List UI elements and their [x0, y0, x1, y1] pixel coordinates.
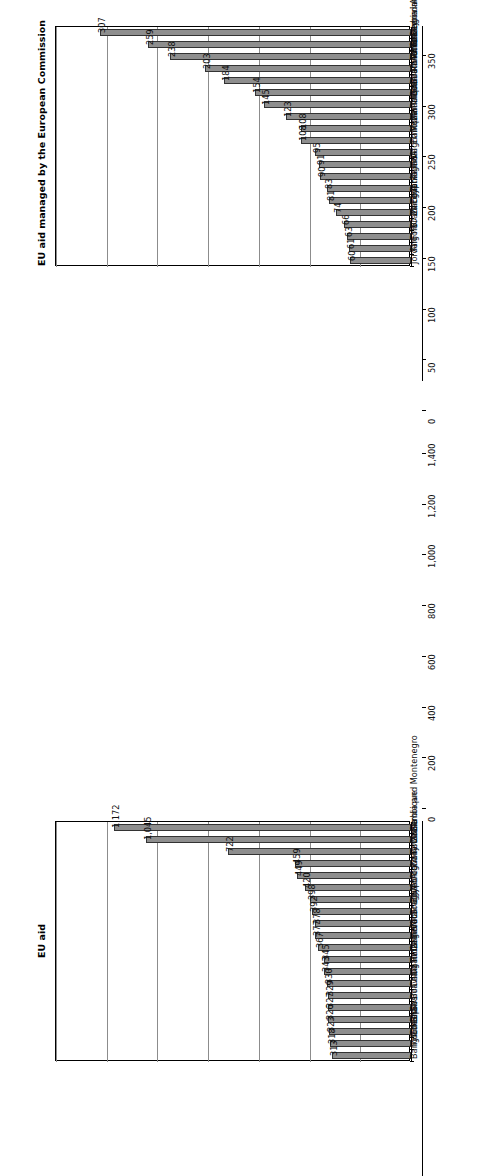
gridline [56, 27, 57, 267]
gridline [259, 27, 260, 267]
bar [295, 860, 411, 867]
chart-title-bottom: EU aid [36, 924, 47, 958]
bar [301, 125, 411, 132]
bar-value-label: 90 [318, 167, 326, 177]
bar-value-label: 66 [342, 215, 350, 225]
bar [310, 896, 411, 903]
value-tick-label: 400 [428, 705, 436, 721]
bar [315, 149, 411, 156]
bar [327, 185, 411, 192]
bar [319, 161, 411, 168]
bar-value-label: 91 [317, 155, 325, 165]
bar [328, 992, 411, 999]
bar [328, 1016, 411, 1023]
bar-value-label: 307 [98, 18, 106, 34]
value-tick-label: 1,000 [428, 545, 436, 568]
value-tick-label: 200 [428, 756, 436, 772]
bar [324, 956, 411, 963]
bar [330, 1040, 411, 1047]
gridline [157, 822, 158, 1062]
bar-value-label: 123 [284, 102, 292, 118]
value-tick [422, 757, 426, 758]
gridline [157, 27, 158, 267]
value-tick-label: 100 [428, 307, 436, 323]
bar [347, 233, 411, 240]
value-tick [422, 707, 426, 708]
gridline [107, 822, 108, 1062]
value-tick [422, 656, 426, 657]
bar [324, 968, 411, 975]
gridline [259, 822, 260, 1062]
bar [305, 884, 412, 891]
bar [350, 257, 411, 264]
gridline [310, 27, 311, 267]
chart-title-top: EU aid managed by the European Commissio… [36, 20, 47, 266]
value-tick-label: 350 [428, 53, 436, 69]
bar [327, 980, 411, 987]
bar-value-label: 61 [347, 239, 355, 249]
plot-area-bottom: 1,1721,045722459449420398392378377367345… [55, 821, 410, 1061]
bar [148, 41, 411, 48]
value-tick-label: 300 [428, 104, 436, 120]
bar-value-label: 74 [334, 203, 342, 213]
bar-value-label: 238 [168, 42, 176, 58]
bar-value-label: 81 [327, 191, 335, 201]
gridline [208, 822, 209, 1062]
bar-value-label: 1,045 [144, 817, 152, 840]
category-tick [410, 266, 414, 267]
bar [329, 1028, 411, 1035]
bar [255, 89, 411, 96]
bar-value-label: 203 [203, 54, 211, 70]
gridline [360, 822, 361, 1062]
bar [228, 848, 411, 855]
value-tick-label: 150 [428, 256, 436, 272]
bar-value-label: 184 [222, 66, 230, 82]
bar [205, 65, 411, 72]
gridline [56, 822, 57, 1062]
bar-value-label: 63 [345, 227, 353, 237]
bar [318, 944, 411, 951]
value-axis-spine [422, 26, 423, 381]
bar [315, 932, 411, 939]
value-tick-label: 0 [428, 817, 436, 822]
plot-area-top: 3072592382031841541451231081089591908381… [55, 26, 410, 266]
chart-eu-aid: EU aid 1,1721,04572245944942039839237837… [0, 398, 480, 796]
value-tick-label: 50 [428, 363, 436, 373]
value-axis-spine [422, 821, 423, 1176]
bar [146, 836, 411, 843]
gridline [310, 822, 311, 1062]
gridline [360, 27, 361, 267]
bar [114, 824, 411, 831]
bar-value-label: 108 [299, 126, 307, 142]
bar-value-label: 154 [253, 78, 261, 94]
bar-value-label: 145 [262, 90, 270, 106]
value-tick-label: 200 [428, 206, 436, 222]
value-tick [422, 554, 426, 555]
bar [315, 920, 411, 927]
category-label: Bangladesh [410, 1011, 418, 1059]
value-tick [422, 808, 426, 809]
chart-eu-aid-managed-by-ec: EU aid managed by the European Commissio… [0, 0, 480, 398]
value-tick-label: 1,200 [428, 494, 436, 517]
bar-value-label: 95 [313, 143, 321, 153]
value-tick [422, 605, 426, 606]
category-label: Jordan [410, 238, 418, 264]
value-tick-label: 800 [428, 604, 436, 620]
bar-value-label: 60 [348, 251, 356, 261]
category-tick [410, 1061, 414, 1062]
bar-value-label: 83 [325, 179, 333, 189]
bar [349, 245, 411, 252]
bar-value-label: 1,172 [112, 805, 120, 828]
value-tick [422, 504, 426, 505]
bar-value-label: 259 [146, 30, 154, 46]
value-tick [422, 453, 426, 454]
bar [328, 1004, 411, 1011]
value-tick-label: 600 [428, 654, 436, 670]
gridline [107, 27, 108, 267]
bar [344, 221, 411, 228]
value-tick-label: 250 [428, 155, 436, 171]
bar-value-label: 722 [226, 837, 234, 853]
bar-value-label: 313 [330, 1041, 338, 1057]
bar [312, 908, 411, 915]
value-tick-label: 1,400 [428, 444, 436, 467]
